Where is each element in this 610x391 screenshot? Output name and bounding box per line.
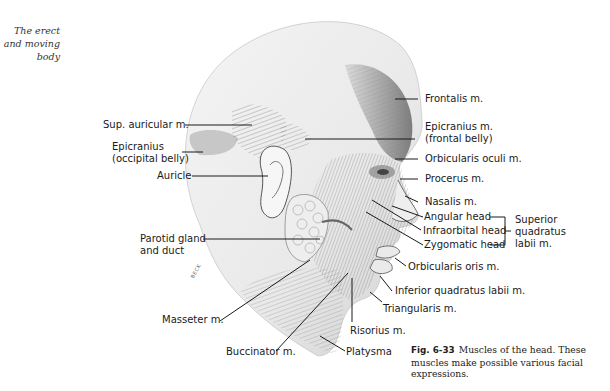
label-line: quadratus: [515, 226, 566, 238]
figure-caption: Fig. 6-33Muscles of the head. These musc…: [411, 344, 606, 380]
label-orbicularis-oris: Orbicularis oris m.: [408, 261, 499, 273]
label-line: Superior: [515, 214, 566, 226]
label-nasalis: Nasalis m.: [425, 196, 477, 208]
label-platysma: Platysma: [346, 346, 392, 358]
label-procerus: Procerus m.: [425, 173, 484, 185]
label-line: and duct: [140, 245, 206, 257]
head-muscle-illustration: [0, 0, 610, 391]
label-auricle: Auricle: [157, 170, 192, 182]
label-line: Epicranius m.: [425, 121, 493, 133]
label-infraorbital-head: Infraorbital head: [423, 225, 506, 237]
label-line: Parotid gland: [140, 233, 206, 245]
label-line: (occipital belly): [112, 153, 189, 165]
label-frontalis: Frontalis m.: [425, 93, 483, 105]
label-parotid-gland: Parotid gland and duct: [140, 233, 206, 257]
label-epicranius-occipital: Epicranius (occipital belly): [112, 141, 189, 165]
label-risorius: Risorius m.: [350, 325, 406, 337]
label-superior-quadratus-labii: Superior quadratus labii m.: [515, 214, 566, 250]
label-triangularis: Triangularis m.: [383, 303, 457, 315]
label-line: labii m.: [515, 238, 566, 250]
label-line: (frontal belly): [425, 133, 493, 145]
label-line: Epicranius: [112, 141, 189, 153]
figure-number: Fig. 6-33: [411, 345, 455, 355]
label-orbicularis-oculi: Orbicularis oculi m.: [425, 153, 522, 165]
label-sup-auricular: Sup. auricular m.: [103, 119, 189, 131]
label-angular-head: Angular head: [424, 211, 491, 223]
label-buccinator: Buccinator m.: [226, 346, 296, 358]
label-epicranius-frontal: Epicranius m. (frontal belly): [425, 121, 493, 145]
label-masseter: Masseter m.: [162, 314, 224, 326]
label-zygomatic-head: Zygomatic head: [424, 239, 505, 251]
label-inferior-quadratus-labii: Inferior quadratus labii m.: [395, 285, 525, 297]
